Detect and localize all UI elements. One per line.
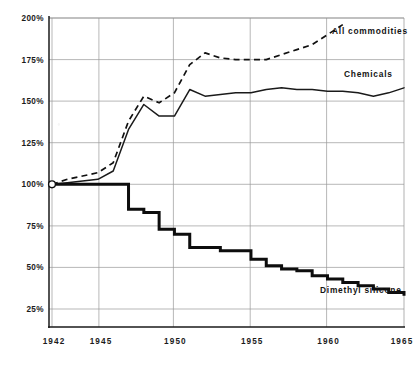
y-axis-tick-labels: 200% 175% 150% 125% 100% 75% 50% 25% <box>21 14 44 314</box>
series-line-chemicals <box>52 88 404 184</box>
chart-canvas: 200% 175% 150% 125% 100% 75% 50% 25% 194… <box>0 0 420 366</box>
x-tick-1945: 1945 <box>90 337 113 346</box>
x-axis-tick-labels: 1942 1945 1950 1955 1960 1965 <box>43 337 414 346</box>
x-tick-1955: 1955 <box>241 337 264 346</box>
y-tick-125: 125% <box>21 139 44 148</box>
horizontal-gridlines <box>49 18 404 309</box>
series-line-all-commodities <box>52 25 343 185</box>
series-label-dimethyl-silicone: Dimethyl silicone <box>320 285 402 295</box>
y-tick-50: 50% <box>26 263 44 272</box>
series-line-dimethyl-silicone <box>52 184 404 295</box>
series-label-all-commodities: All commodities <box>332 26 408 36</box>
series-label-chemicals: Chemicals <box>344 69 393 79</box>
vertical-gridlines <box>52 18 404 327</box>
y-tick-200: 200% <box>21 14 44 23</box>
x-tick-1960: 1960 <box>317 337 340 346</box>
y-tick-100: 100% <box>21 180 44 189</box>
x-tick-1965: 1965 <box>391 337 414 346</box>
origin-marker-circle <box>49 181 56 188</box>
y-tick-25: 25% <box>26 305 44 314</box>
y-tick-150: 150% <box>21 97 44 106</box>
y-tick-75: 75% <box>26 222 44 231</box>
y-tick-175: 175% <box>21 56 44 65</box>
x-tick-1950: 1950 <box>164 337 187 346</box>
x-tick-1942: 1942 <box>43 337 66 346</box>
price-index-chart: 200% 175% 150% 125% 100% 75% 50% 25% 194… <box>0 0 420 366</box>
